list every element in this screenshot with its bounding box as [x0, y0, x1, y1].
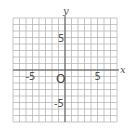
x-tick-label: -5 [26, 71, 36, 82]
y-axis-label: y [62, 5, 69, 16]
x-axis-label: x [120, 64, 126, 75]
coordinate-grid: x y O -555-5 [0, 0, 129, 133]
y-tick-label: 5 [58, 33, 64, 44]
origin-label: O [56, 72, 65, 86]
y-tick-label: -5 [54, 98, 64, 109]
x-tick-label: 5 [95, 71, 101, 82]
